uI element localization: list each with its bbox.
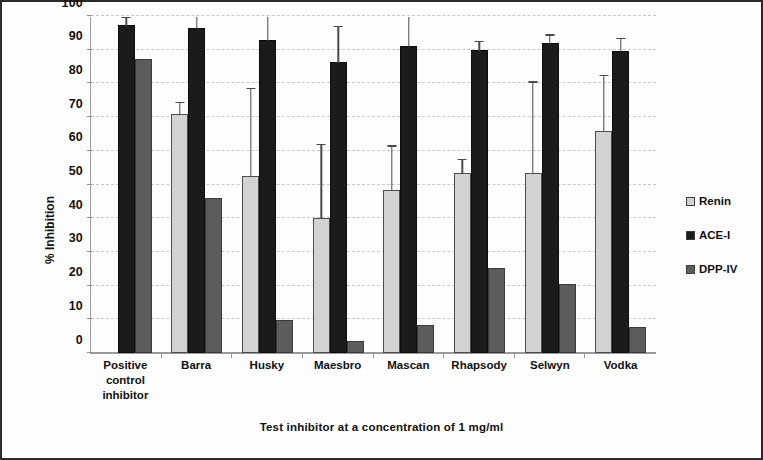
x-axis-category-label: Vodka xyxy=(585,358,656,403)
x-axis-category-label: Mascan xyxy=(373,358,444,403)
bar-dpp-iv xyxy=(347,341,364,353)
bar-slot-renin xyxy=(313,17,330,353)
error-bar-cap xyxy=(122,17,131,18)
x-axis-category-label: Husky xyxy=(232,358,303,403)
bar-renin xyxy=(242,176,259,353)
bar-dpp-iv xyxy=(488,268,505,353)
chart-figure: % Inhibition 1009080706050403020100 Posi… xyxy=(0,0,763,460)
bar-slot-ace-i xyxy=(330,17,347,353)
legend-label: DPP-IV xyxy=(699,263,737,275)
legend-swatch-icon xyxy=(686,231,695,240)
y-axis-tick-label: 60 xyxy=(69,130,91,144)
bar-renin xyxy=(595,131,612,353)
y-axis-tick-label: 0 xyxy=(76,333,91,347)
bar-slot-dpp-iv xyxy=(488,17,505,353)
bar-slot-renin xyxy=(101,17,118,353)
bar-slot-dpp-iv xyxy=(205,17,222,353)
y-axis-tick-label: 20 xyxy=(69,265,91,279)
bar-group xyxy=(515,17,586,353)
error-bar xyxy=(462,160,463,173)
error-bar-cap xyxy=(458,159,467,160)
bar-slot-renin xyxy=(171,17,188,353)
bar-group xyxy=(444,17,515,353)
chart-legend: ReninACE-IDPP-IV xyxy=(686,195,737,297)
bar-slot-dpp-iv xyxy=(417,17,434,353)
legend-item: DPP-IV xyxy=(686,263,737,275)
error-bar-cap xyxy=(246,88,255,89)
bar-dpp-iv xyxy=(629,327,646,353)
plot-area: 1009080706050403020100 xyxy=(90,17,656,354)
bar-ace-i xyxy=(118,25,135,353)
bar-slot-renin xyxy=(525,17,542,353)
bar-slot-renin xyxy=(454,17,471,353)
error-bar xyxy=(620,39,621,52)
error-bar xyxy=(532,83,533,174)
bar-group xyxy=(91,17,162,353)
error-bar xyxy=(250,89,251,177)
bar-ace-i xyxy=(330,62,347,354)
legend-label: Renin xyxy=(699,195,731,207)
bar-slot-renin xyxy=(242,17,259,353)
error-bar-cap xyxy=(529,81,538,82)
bar-slot-ace-i xyxy=(471,17,488,353)
bar-group xyxy=(374,17,445,353)
bar-renin xyxy=(383,190,400,353)
error-bar-cap xyxy=(175,102,184,103)
y-axis-tick-label: 50 xyxy=(69,164,91,178)
bar-group xyxy=(162,17,233,353)
x-axis-category-label: Selwyn xyxy=(515,358,586,403)
bar-ace-i xyxy=(471,50,488,353)
legend-swatch-icon xyxy=(686,265,695,274)
error-bar-cap xyxy=(599,75,608,76)
bar-renin xyxy=(171,114,188,353)
bar-dpp-iv xyxy=(205,198,222,353)
y-axis-tick-label: 90 xyxy=(69,29,91,43)
bar-slot-ace-i xyxy=(400,17,417,353)
bar-dpp-iv xyxy=(276,320,293,353)
error-bar-cap xyxy=(387,145,396,146)
error-bar xyxy=(267,17,268,41)
bar-ace-i xyxy=(188,28,205,353)
bar-slot-ace-i xyxy=(612,17,629,353)
y-axis-tick-mark xyxy=(87,15,92,16)
bar-slot-ace-i xyxy=(188,17,205,353)
error-bar xyxy=(391,147,392,191)
bar-group xyxy=(585,17,656,353)
error-bar xyxy=(603,76,604,132)
error-bar xyxy=(337,27,338,62)
bar-dpp-iv xyxy=(559,284,576,353)
bar-ace-i xyxy=(400,46,417,353)
bar-dpp-iv xyxy=(135,59,152,353)
error-bar-cap xyxy=(334,26,343,27)
error-bar xyxy=(479,42,480,50)
gridline xyxy=(91,15,656,16)
bar-ace-i xyxy=(612,51,629,353)
bar-group xyxy=(303,17,374,353)
error-bar-cap xyxy=(546,34,555,35)
legend-item: Renin xyxy=(686,195,737,207)
bar-dpp-iv xyxy=(417,325,434,353)
legend-swatch-icon xyxy=(686,197,695,206)
error-bar xyxy=(196,17,197,29)
bar-renin xyxy=(454,173,471,353)
bar-slot-ace-i xyxy=(118,17,135,353)
error-bar xyxy=(549,36,550,44)
error-bar xyxy=(126,18,127,26)
error-bar xyxy=(320,145,321,219)
error-bar xyxy=(179,103,180,115)
error-bar-cap xyxy=(475,41,484,42)
bar-slot-dpp-iv xyxy=(347,17,364,353)
bar-slot-ace-i xyxy=(542,17,559,353)
bar-renin xyxy=(313,218,330,353)
x-axis-category-label: Rhapsody xyxy=(444,358,515,403)
bar-slot-ace-i xyxy=(259,17,276,353)
error-bar xyxy=(408,17,409,47)
y-axis-tick-label: 70 xyxy=(69,97,91,111)
bar-renin xyxy=(525,173,542,353)
x-axis-category-labels: Positive control inhibitorBarraHuskyMaes… xyxy=(90,358,656,403)
legend-item: ACE-I xyxy=(686,229,737,241)
y-axis-tick-label: 40 xyxy=(69,198,91,212)
bar-slot-dpp-iv xyxy=(276,17,293,353)
x-axis-category-label: Barra xyxy=(161,358,232,403)
x-axis-category-label: Positive control inhibitor xyxy=(90,358,161,403)
